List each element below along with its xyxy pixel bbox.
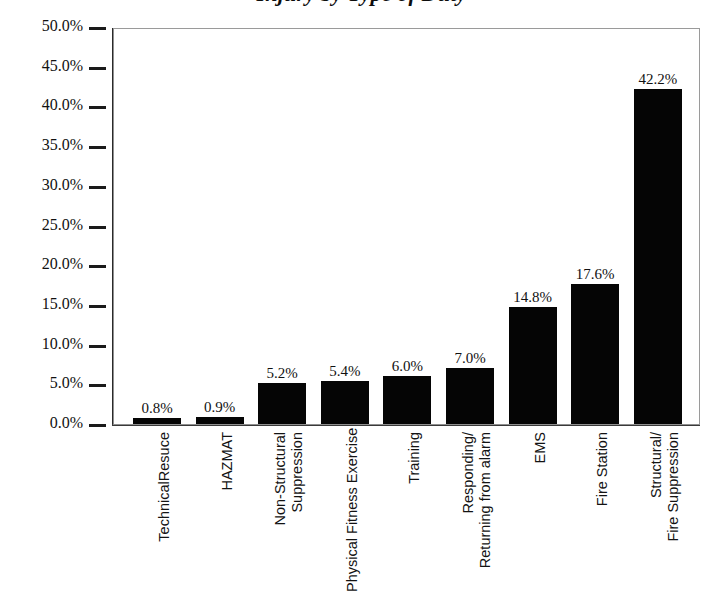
x-axis-label: HAZMAT [219,432,236,592]
bar[interactable] [634,89,682,424]
x-axis-label-line: Training [406,432,423,592]
x-axis-label-line: Physical Fitness Exercise [344,432,361,592]
bar-group[interactable]: 42.2% [634,27,682,424]
bar[interactable] [571,284,619,424]
y-axis-tick-label: 45.0% [42,57,83,75]
y-axis-tick-label: 15.0% [42,295,83,313]
bar-group[interactable]: 5.2% [258,27,306,424]
y-axis-tick-label: 5.0% [50,374,83,392]
bar-group[interactable]: 0.8% [133,27,181,424]
bar[interactable] [383,376,431,424]
y-axis-tick-mark [89,146,106,149]
bar-group[interactable]: 0.9% [196,27,244,424]
bar-value-label: 42.2% [621,71,695,88]
y-axis-tick-mark [89,345,106,348]
x-axis-label-line: TechnicalResuce [156,432,173,592]
x-axis-label-line: Suppression [289,432,306,592]
x-axis-label: Training [406,432,423,592]
bar-group[interactable]: 7.0% [446,27,494,424]
x-axis-label-line: Fire Station [594,432,611,592]
chart-title: Injury by Type of Duty [0,0,723,7]
y-axis-tick-label: 20.0% [42,255,83,273]
x-axis-label: Responding/Returning from alarm [460,432,494,592]
x-axis-label-line: Non-Structural [272,432,289,592]
y-axis-tick-mark [89,27,106,30]
y-axis-tick-mark [89,186,106,189]
y-axis-tick-mark [89,106,106,109]
x-axis-label: Non-StructuralSuppression [272,432,306,592]
plot-area: 0.8%0.9%5.2%5.4%6.0%7.0%14.8%17.6%42.2% [113,28,700,425]
x-axis-label: Structural/Fire Suppression [648,432,682,592]
y-axis-tick-label: 35.0% [42,136,83,154]
bar-value-label: 14.8% [496,289,570,306]
y-axis-tick-mark [89,384,106,387]
x-axis-label-line: Fire Suppression [665,432,682,592]
bar-value-label: 7.0% [433,350,507,367]
y-axis-tick-label: 50.0% [42,17,83,35]
chart-page: Injury by Type of Duty 50.0%45.0%40.0%35… [0,0,723,594]
bar[interactable] [133,418,181,424]
y-axis-tick-mark [89,424,106,427]
x-axis-label: TechnicalResuce [156,432,173,592]
y-axis-tick-label: 30.0% [42,176,83,194]
x-axis-label-line: Structural/ [648,432,665,592]
bar[interactable] [321,381,369,424]
x-axis-label-line: EMS [532,432,549,592]
y-axis-tick-mark [89,265,106,268]
bar-value-label: 17.6% [558,266,632,283]
bar[interactable] [509,307,557,425]
x-axis-label: EMS [532,432,549,592]
x-axis-label: Physical Fitness Exercise [344,432,361,592]
bar[interactable] [258,383,306,424]
bar-value-label: 0.9% [183,399,257,416]
x-axis-label-line: Returning from alarm [477,432,494,592]
x-axis-label-line: HAZMAT [219,432,236,592]
y-axis-tick-label: 40.0% [42,96,83,114]
x-axis-label: Fire Station [594,432,611,592]
bar-group[interactable]: 14.8% [509,27,557,424]
bar-group[interactable]: 17.6% [571,27,619,424]
bar[interactable] [446,368,494,424]
x-axis-label-line: Responding/ [460,432,477,592]
y-axis-tick-label: 25.0% [42,216,83,234]
y-axis-tick-label: 10.0% [42,335,83,353]
bar[interactable] [196,417,244,424]
bar-group[interactable]: 6.0% [383,27,431,424]
y-axis-tick-mark [89,226,106,229]
bar-group[interactable]: 5.4% [321,27,369,424]
y-axis-tick-mark [89,67,106,70]
y-axis-tick-label: 0.0% [50,414,83,432]
y-axis-tick-mark [89,305,106,308]
